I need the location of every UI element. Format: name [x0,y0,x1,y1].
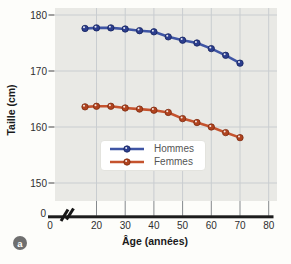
x-tick-label-20: 20 [91,220,103,231]
data-point-highlight [166,110,168,112]
data-point-highlight [238,136,240,138]
data-point-femmes [165,109,171,115]
data-point-femmes [93,103,99,109]
legend-line-hommes-icon [109,144,145,154]
legend-label-hommes: Hommes [154,144,194,154]
data-point-highlight [123,27,125,29]
data-point-hommes [122,26,128,32]
data-point-femmes [108,103,114,109]
data-point-highlight [224,53,226,55]
x-axis-title: Âge (années) [122,235,188,247]
data-point-highlight [138,29,140,31]
x-tick-label-80: 80 [263,220,275,231]
data-point-hommes [151,29,157,35]
data-point-highlight [209,47,211,49]
x-tick-label-30: 30 [120,220,132,231]
legend-item-hommes: Hommes [109,143,205,156]
x-axis-line [48,215,274,218]
x-tick-label-40: 40 [148,220,160,231]
data-point-highlight [152,30,154,32]
data-point-hommes [237,60,243,66]
data-point-femmes [179,115,185,121]
data-point-hommes [165,34,171,40]
data-point-highlight [238,61,240,63]
data-point-highlight [109,26,111,28]
x-tick-label-50: 50 [177,220,189,231]
y-tick-label-0: 0 [40,208,46,219]
data-point-highlight [181,38,183,40]
data-point-highlight [109,104,111,106]
legend-line-femmes-icon [109,157,145,167]
data-point-femmes [122,105,128,111]
data-point-highlight [83,105,85,107]
y-tick-label-180: 180 [30,10,47,21]
data-point-highlight [224,131,226,133]
legend: Hommes Femmes [100,140,206,171]
figure: 0203040506070800150160170180 Taille (cm)… [0,0,291,264]
data-point-highlight [152,108,154,110]
data-point-highlight [83,26,85,28]
data-point-hommes [136,27,142,33]
legend-item-femmes: Femmes [109,156,205,169]
x-tick-label-70: 70 [234,220,246,231]
x-tick-label-0: 0 [47,220,53,231]
data-point-highlight [195,120,197,122]
y-tick-label-160: 160 [30,122,47,133]
data-point-femmes [222,129,228,135]
data-point-highlight [181,117,183,119]
x-tick-label-60: 60 [206,220,218,231]
y-axis-title: Taille (cm) [5,84,17,135]
data-point-hommes [179,37,185,43]
chart-canvas: 0203040506070800150160170180 Taille (cm)… [0,0,291,264]
data-point-femmes [136,106,142,112]
data-point-femmes [194,119,200,125]
data-point-highlight [166,35,168,37]
data-point-hommes [108,25,114,31]
data-point-highlight [95,104,97,106]
data-point-highlight [123,106,125,108]
legend-label-femmes: Femmes [154,157,193,167]
data-point-highlight [95,26,97,28]
data-point-femmes [151,107,157,113]
data-point-highlight [209,125,211,127]
data-point-hommes [194,40,200,46]
data-point-femmes [82,104,88,110]
data-point-highlight [195,41,197,43]
data-point-femmes [208,124,214,130]
data-point-hommes [82,25,88,31]
data-point-highlight [138,107,140,109]
y-tick-label-150: 150 [30,178,47,189]
data-point-femmes [237,134,243,140]
data-point-hommes [93,25,99,31]
data-point-hommes [208,45,214,51]
data-point-hommes [222,52,228,58]
y-tick-label-170: 170 [30,66,47,77]
panel-badge: a [13,236,27,250]
